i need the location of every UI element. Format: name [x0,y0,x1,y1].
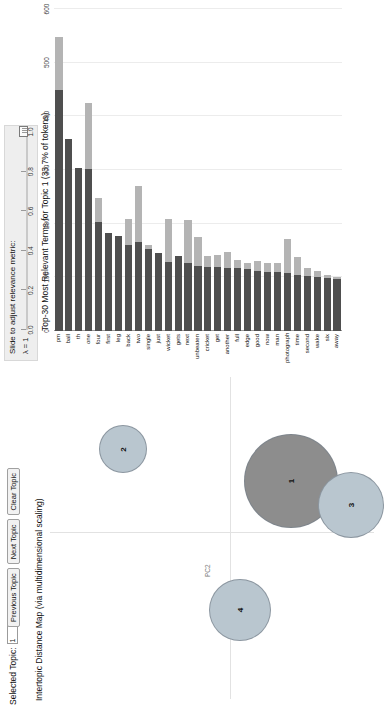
next-topic-button[interactable]: Next Topic [7,519,20,564]
bar-row[interactable] [264,9,271,331]
bar-category-label: leg [115,334,122,363]
bar-category-label: ball [65,334,72,363]
bar-category-label: good [254,334,261,363]
bar-category-label: two [135,334,142,363]
slider-tick [21,329,26,330]
bar-row[interactable] [204,9,211,331]
bar-row[interactable] [105,9,112,331]
bar-category-label: wicket [165,334,172,363]
bar-row[interactable] [224,9,231,331]
bar-topic-frequency [284,273,291,331]
slider-tick-label: 0.6 [27,207,34,216]
bar-row[interactable] [274,9,281,331]
bar-row[interactable] [254,9,261,331]
bar-row[interactable] [55,9,62,331]
bar-row[interactable] [194,9,201,331]
bar-category-label: time [294,334,301,363]
bar-category-label: wake [314,334,321,363]
bar-category-label: now [264,334,271,363]
clear-topic-button[interactable]: Clear Topic [7,468,20,515]
bar-row[interactable] [135,9,142,331]
bar-row[interactable] [294,9,301,331]
bar-topic-frequency [165,262,172,331]
bar-topic-frequency [55,90,62,331]
previous-topic-button[interactable]: Previous Topic [7,568,20,627]
bar-category-label: another [224,334,231,363]
bar-row[interactable] [314,9,321,331]
bar-topic-frequency [254,271,261,331]
selected-topic-label: Selected Topic: [8,648,18,706]
bar-row[interactable] [234,9,241,331]
bar-topic-frequency [95,222,102,331]
x-tick-label: 400 [43,111,50,122]
bar-category-label: back [125,334,132,363]
bar-topic-frequency [224,268,231,331]
bar-category-label: photograph [284,334,291,363]
bar-row[interactable] [95,9,102,331]
bar-category-label: get [214,334,221,363]
selected-topic-control: Selected Topic: [7,621,18,706]
bar-row[interactable] [85,9,92,331]
bar-topic-frequency [184,263,191,331]
bar-category-label: six [324,334,331,363]
bar-row[interactable] [115,9,122,331]
bar-row[interactable] [284,9,291,331]
topic-bubble-label: 2 [119,447,128,451]
bar-row[interactable] [175,9,182,331]
bar-topic-frequency [304,276,311,331]
bar-topic-frequency [75,168,82,331]
slider-handle[interactable] [19,126,28,137]
bar-topic-frequency [244,269,251,331]
bar-row[interactable] [165,9,172,331]
bar-category-label: pm [55,334,62,363]
map-x-axis [230,377,231,699]
topic-toolbar: Selected Topic: Previous Topic Next Topi… [6,375,28,705]
intertopic-distance-map-panel: Intertopic Distance Map (via multidimens… [34,373,378,709]
bar-category-label: one [85,334,92,363]
bar-topic-frequency [65,139,72,331]
slider-tick-label: 0.0 [27,325,34,334]
slider-tick-label: 0.4 [27,246,34,255]
bar-row[interactable] [155,9,162,331]
bar-row[interactable] [333,9,340,331]
intertopic-map-title: Intertopic Distance Map (via multidimens… [34,498,44,701]
bar-topic-frequency [294,275,301,331]
bar-row[interactable] [324,9,331,331]
bar-row[interactable] [244,9,251,331]
bar-topic-frequency [264,272,271,331]
bar-topic-frequency [314,277,321,331]
bar-row[interactable] [65,9,72,331]
bar-topic-frequency [214,267,221,331]
x-tick-label: 300 [43,165,50,176]
slider-tick-label: 1.0 [27,127,34,136]
x-tick-label: 100 [43,272,50,283]
bar-row[interactable] [75,9,82,331]
bar-topic-frequency [145,249,152,331]
bar-topic-frequency [324,278,331,331]
bar-topic-frequency [274,272,281,331]
map-y-axis [50,532,374,533]
bar-topic-frequency [333,279,340,331]
bar-category-label: unbeaten [194,334,201,363]
bar-topic-frequency [234,268,241,331]
slider-tick-label: 0.2 [27,286,34,295]
x-tick-label: 500 [43,57,50,68]
bar-row[interactable] [214,9,221,331]
bar-row[interactable] [125,9,132,331]
bar-row[interactable] [184,9,191,331]
bar-category-label: cricket [204,334,211,363]
bar-row[interactable] [145,9,152,331]
bar-row[interactable] [304,9,311,331]
bar-category-label: full [234,334,241,363]
relevance-slider-panel[interactable]: Slide to adjust relevance metric: λ = 1 … [4,125,38,361]
bar-topic-frequency [115,236,122,331]
x-tick-label: 600 [43,4,50,15]
bar-category-label: away [333,334,340,363]
slider-track[interactable] [26,132,28,330]
topic-bubble-label: 3 [347,503,356,507]
bar-category-label: just [155,334,162,363]
x-tick-label: 200 [43,218,50,229]
slider-tick [21,250,26,251]
lambda-value-label: λ = 1 [21,338,30,354]
